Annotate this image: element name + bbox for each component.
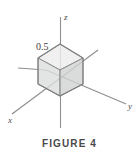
axis-end-marks bbox=[12, 112, 14, 114]
dimension-label: 0.5 bbox=[36, 41, 49, 52]
x-axis-label: x bbox=[7, 115, 12, 125]
figure-illustration: z y x 0.5 bbox=[0, 0, 139, 155]
figure-caption: FIGURE 4 bbox=[0, 138, 139, 149]
z-axis-label: z bbox=[63, 12, 68, 22]
y-axis-label: y bbox=[127, 101, 132, 111]
x-axis-endtick bbox=[12, 112, 14, 114]
figure-container: z y x 0.5 FIGURE 4 bbox=[0, 0, 139, 155]
